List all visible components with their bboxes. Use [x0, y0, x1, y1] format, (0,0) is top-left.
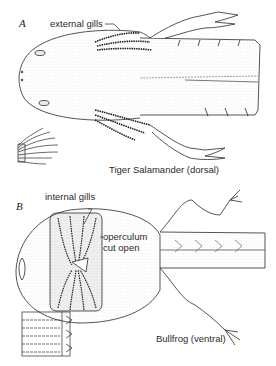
panel-letter-b: B — [16, 200, 23, 212]
panel-letter-a: A — [19, 17, 26, 29]
internal-gills-label: internal gills — [45, 192, 95, 202]
top-caption-fragment — [0, 0, 90, 3]
external-gills-label: external gills — [50, 19, 103, 29]
operculum-label-line2: cut open — [103, 243, 139, 253]
salamander-drawing — [18, 12, 260, 164]
bullfrog-drawing — [16, 190, 265, 356]
bullfrog-caption: Bullfrog (ventral) — [156, 334, 226, 344]
gill-tuft-detail — [18, 128, 58, 164]
figure-illustration — [0, 0, 276, 366]
salamander-caption: Tiger Salamander (dorsal) — [109, 165, 219, 175]
operculum-label-line1: operculum — [103, 232, 147, 242]
